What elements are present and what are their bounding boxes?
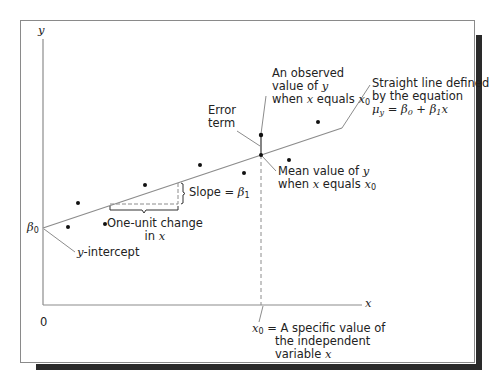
- data-point: [242, 171, 246, 175]
- mean-point: [259, 153, 263, 157]
- mean-value-annotation: Mean value of y when x equals x0: [278, 165, 376, 191]
- observed-point: [259, 133, 263, 137]
- error-term-leader: [237, 131, 260, 146]
- mean-value-leader: [262, 156, 276, 171]
- error-term-annotation: Error term: [208, 104, 236, 130]
- observed-leader: [261, 96, 266, 134]
- observed-value-annotation: An observed value of y when x equals x0: [272, 67, 370, 106]
- beta0-label: β0: [27, 221, 39, 234]
- data-point: [66, 225, 70, 229]
- data-point: [287, 158, 291, 162]
- x0-leader: [259, 306, 263, 322]
- one-unit-change-annotation: One-unit change in x: [107, 217, 203, 243]
- run-brace: [110, 206, 178, 213]
- origin-label: 0: [40, 316, 47, 329]
- y-intercept-leader: [44, 229, 75, 252]
- data-point: [316, 120, 320, 124]
- regression-diagram: [0, 0, 502, 384]
- y-axis-label: y: [38, 24, 45, 37]
- y-intercept-annotation: y-intercept: [77, 246, 139, 259]
- x-axis-label: x: [365, 297, 372, 310]
- rise-brace: [181, 183, 185, 204]
- data-point: [198, 163, 202, 167]
- slope-annotation: Slope = β1: [189, 186, 250, 199]
- data-point: [76, 201, 80, 205]
- regression-equation: μy = β0 + β1x: [372, 103, 489, 116]
- x0-definition-annotation: x0 = A specific value of the independent…: [252, 322, 385, 361]
- straight-line-annotation: Straight line defined by the equation μy…: [372, 77, 489, 116]
- data-point: [143, 183, 147, 187]
